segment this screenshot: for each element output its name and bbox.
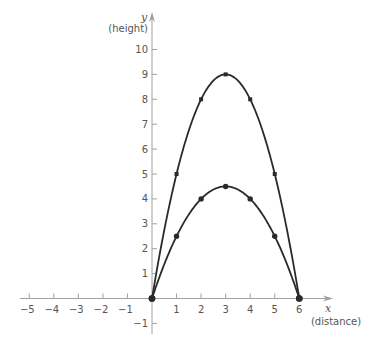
x-tick-label: 4: [247, 304, 253, 315]
x-tick-label: −5: [20, 304, 35, 315]
x-tick-label: 1: [173, 304, 179, 315]
square-marker: [199, 97, 203, 101]
y-tick-label: 5: [142, 169, 148, 180]
y-tick-label: 3: [142, 218, 148, 229]
circle-marker: [296, 295, 303, 302]
x-axis-label: x: [325, 302, 332, 315]
y-tick-label: 1: [142, 268, 148, 279]
x-tick-label: −4: [44, 304, 59, 315]
circle-marker: [272, 234, 277, 239]
y-tick-label: 8: [142, 94, 148, 105]
square-marker: [248, 97, 252, 101]
y-tick-label: −1: [133, 318, 148, 329]
x-axis-sublabel: (distance): [311, 316, 361, 327]
circle-marker: [174, 234, 179, 239]
x-tick-label: −1: [118, 304, 133, 315]
data-markers: [149, 72, 303, 301]
curve-lower: [152, 186, 299, 298]
square-marker: [273, 172, 277, 176]
axis-ticks: −5−4−3−2−1123456−112345678910: [20, 44, 303, 329]
square-marker: [224, 72, 228, 76]
y-tick-label: 2: [142, 243, 148, 254]
y-tick-label: 6: [142, 144, 148, 155]
y-tick-label: 7: [142, 119, 148, 130]
square-marker: [175, 172, 179, 176]
y-tick-label: 10: [135, 44, 148, 55]
x-tick-label: 2: [198, 304, 204, 315]
x-tick-label: −2: [94, 304, 109, 315]
y-tick-label: 9: [142, 69, 148, 80]
circle-marker: [198, 196, 203, 201]
x-tick-label: 3: [222, 304, 228, 315]
x-tick-label: 6: [296, 304, 302, 315]
x-tick-label: 5: [272, 304, 278, 315]
circle-marker: [248, 196, 253, 201]
x-tick-label: −3: [69, 304, 84, 315]
y-tick-label: 4: [142, 193, 148, 204]
circle-marker: [149, 295, 156, 302]
circle-marker: [223, 184, 228, 189]
trajectory-chart: −5−4−3−2−1123456−112345678910 y (height)…: [0, 0, 370, 352]
y-axis-sublabel: (height): [108, 23, 148, 34]
